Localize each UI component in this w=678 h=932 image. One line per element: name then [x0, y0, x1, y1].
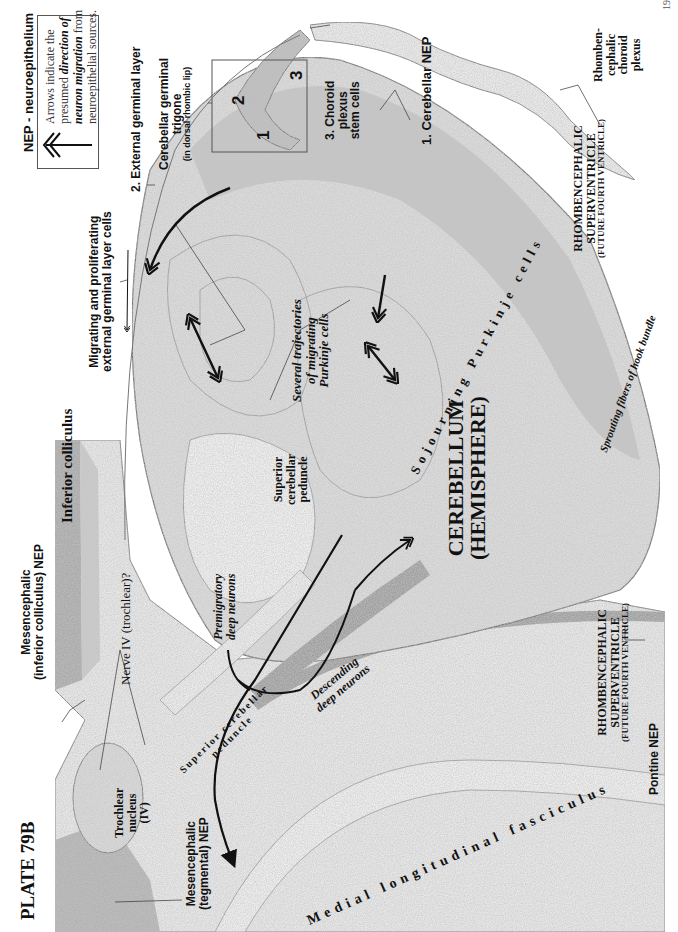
label-external-germinal-layer: 2. External germinal layer	[130, 47, 143, 192]
label-mesencephalic-ic-nep: Mesencephalic (inferior colliculus) NEP	[20, 544, 45, 680]
inset-marker-1: 1	[255, 131, 273, 140]
label-rhombencephalic-choroid-plexus: Rhomben- cephalic choroid plexus	[592, 28, 642, 82]
label-migrating-egl-cells: Migrating and proliferating external ger…	[88, 211, 113, 372]
label-choroid-plexus-stem-cells: 3. Choroid plexus stem cells	[324, 81, 362, 140]
egl-thin-arrow	[127, 250, 128, 330]
label-inferior-colliculus: Inferior colliculus	[60, 409, 76, 523]
label-cerebellar-nep: 1. Cerebellar NEP	[420, 37, 434, 145]
page-number: 19	[662, 0, 673, 10]
inset-marker-3: 3	[288, 71, 306, 80]
label-superior-cerebellar-peduncle: Superior cerebellar peduncle	[272, 454, 310, 505]
label-germinal-trigone: Cerebellar germinal trigone (in dorsal r…	[158, 58, 193, 170]
label-nerve-iv: Nerve IV (trochlear)?	[119, 573, 133, 685]
plate-title: PLATE 79B	[18, 822, 38, 920]
inset-marker-2: 2	[230, 96, 248, 105]
nep-definition: NEP - neuroepithelium	[22, 13, 36, 152]
label-trochlear-nucleus: Trochlear nucleus (IV)	[113, 788, 151, 838]
label-pontine-nep: Pontine NEP	[648, 723, 661, 795]
label-several-trajectories: Several trajectories of migrating Purkin…	[290, 299, 331, 402]
label-mesencephalic-tegmental-nep: Mesencephalic (tegmental) NEP	[185, 817, 210, 910]
label-superventricle-bottom: RHOMBENCEPHALIC SUPERVENTRICLE (FUTURE F…	[596, 603, 631, 742]
legend-box: Arrows indicate the presumed direction o…	[37, 15, 99, 169]
legend-note: Arrows indicate the presumed direction o…	[43, 10, 99, 124]
label-cerebellum-hemisphere: CEREBELLUM (HEMISPHERE)	[445, 396, 489, 560]
label-superventricle-top: RHOMBENCEPHALIC SUPERVENTRICLE (FUTURE F…	[572, 119, 607, 258]
legend-up-arrow-icon	[42, 128, 94, 162]
label-premigratory-deep-neurons: Premigratory deep neurons	[212, 574, 237, 640]
